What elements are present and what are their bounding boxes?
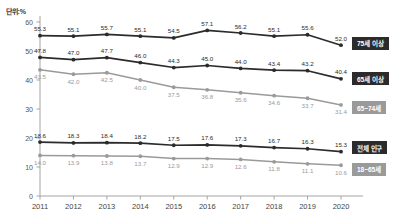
data-label: 12.6 — [235, 163, 248, 170]
x-axis-tick: 2012 — [65, 202, 82, 211]
data-point — [205, 157, 209, 161]
data-label: 42.5 — [101, 76, 114, 83]
data-point — [306, 147, 310, 151]
legend-label: 전체 인구 — [357, 143, 382, 153]
x-axis-tick: 2020 — [333, 202, 350, 211]
data-label: 57.1 — [201, 20, 214, 27]
data-label: 14.0 — [34, 159, 47, 166]
data-label: 11.1 — [302, 167, 314, 174]
data-point — [306, 162, 310, 166]
legend-65-plus[interactable]: 65세 이상 — [352, 72, 389, 85]
data-point — [72, 58, 76, 62]
data-point — [72, 154, 76, 158]
data-point — [239, 91, 243, 95]
y-axis-tick: 0 — [29, 193, 33, 200]
data-label: 15.3 — [335, 141, 348, 148]
data-label: 56.2 — [235, 23, 248, 30]
data-point — [339, 150, 343, 154]
data-label: 43.2 — [302, 60, 315, 67]
data-point — [339, 163, 343, 167]
data-label: 33.7 — [302, 102, 315, 109]
y-axis: 0102030405060 — [25, 16, 40, 200]
data-label: 55.7 — [101, 24, 114, 31]
data-point — [38, 55, 42, 59]
chart-container: 단위:% 0102030405060 201120122013201420152… — [0, 0, 407, 224]
data-point — [239, 158, 243, 162]
data-label: 13.9 — [67, 159, 80, 166]
data-label: 18.3 — [67, 132, 80, 139]
data-label: 12.9 — [201, 162, 214, 169]
data-point — [339, 77, 343, 81]
data-point — [306, 96, 310, 100]
y-axis-tick: 60 — [25, 19, 33, 26]
data-point — [38, 140, 42, 144]
data-point — [306, 33, 310, 37]
x-axis-tick: 2016 — [199, 202, 216, 211]
data-label: 18.4 — [101, 132, 114, 139]
data-label: 52.0 — [335, 35, 348, 42]
data-label: 42.0 — [67, 78, 80, 85]
legend-75-plus[interactable]: 75세 이상 — [352, 37, 389, 50]
legend-label: 18~65세 — [357, 164, 381, 174]
data-label: 55.1 — [134, 26, 147, 33]
x-axis-tick: 2014 — [132, 202, 149, 211]
data-label: 37.5 — [168, 91, 181, 98]
legend-18-65[interactable]: 18~65세 — [352, 163, 386, 176]
series-line — [40, 57, 341, 78]
x-axis-tick: 2011 — [32, 202, 48, 211]
data-label: 35.6 — [235, 96, 248, 103]
data-point — [339, 43, 343, 47]
data-point — [138, 141, 142, 145]
data-label: 16.7 — [268, 137, 281, 144]
legend-total-pop[interactable]: 전체 인구 — [352, 141, 387, 154]
data-point — [306, 69, 310, 73]
data-point — [105, 154, 109, 158]
data-point — [272, 160, 276, 164]
series-layer — [38, 29, 343, 168]
data-point — [239, 31, 243, 35]
x-axis-tick: 2018 — [266, 202, 283, 211]
data-point — [138, 61, 142, 65]
data-point — [72, 34, 76, 38]
data-label: 13.8 — [101, 159, 114, 166]
y-axis-tick: 30 — [25, 106, 33, 113]
data-label: 17.3 — [235, 135, 248, 142]
data-point — [272, 68, 276, 72]
data-point — [38, 34, 42, 38]
legend-label: 75세 이상 — [357, 38, 384, 48]
y-axis-tick: 40 — [25, 77, 33, 84]
data-point — [205, 143, 209, 147]
data-label: 47.0 — [67, 49, 80, 56]
data-label: 55.1 — [67, 26, 80, 33]
data-point — [272, 34, 276, 38]
data-point — [239, 144, 243, 148]
x-axis-tick: 2013 — [99, 202, 116, 211]
data-label: 16.3 — [302, 138, 315, 145]
data-label: 12.9 — [168, 162, 181, 169]
data-point — [339, 103, 343, 107]
data-label: 43.5 — [34, 73, 47, 80]
data-label: 31.4 — [335, 108, 348, 115]
series-line — [40, 142, 341, 152]
series-line — [40, 30, 341, 45]
data-label: 13.7 — [134, 160, 147, 167]
data-point — [172, 85, 176, 89]
data-point — [205, 88, 209, 92]
legend-65-74[interactable]: 65~74세 — [352, 101, 386, 114]
data-label: 44.0 — [235, 58, 248, 65]
data-label: 55.1 — [268, 26, 281, 33]
data-point — [172, 157, 176, 161]
data-label: 47.8 — [34, 47, 47, 54]
data-label: 47.7 — [101, 47, 114, 54]
data-point — [38, 154, 42, 158]
data-point — [138, 78, 142, 82]
data-label: 17.6 — [201, 134, 214, 141]
data-point — [38, 68, 42, 72]
data-point — [72, 72, 76, 76]
x-axis: 2011201220132014201520162017201820192020 — [32, 196, 363, 211]
data-label: 18.2 — [134, 133, 147, 140]
data-point — [272, 94, 276, 98]
y-axis-tick: 20 — [25, 135, 33, 142]
y-axis-tick: 50 — [25, 48, 33, 55]
data-point — [138, 154, 142, 158]
